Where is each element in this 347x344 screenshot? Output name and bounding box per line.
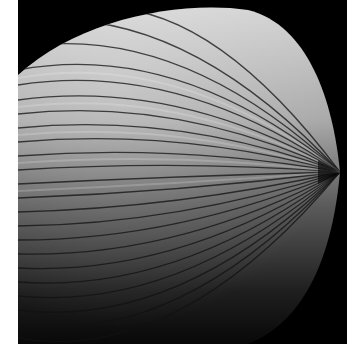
shell-body xyxy=(18,0,347,344)
shell-photograph: Black and white photograph of a ribbed s… xyxy=(18,0,347,344)
shell-illustration xyxy=(18,0,347,344)
